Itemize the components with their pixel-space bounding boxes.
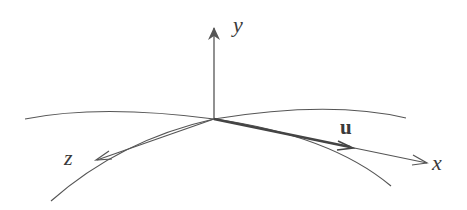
u-vector xyxy=(214,119,350,147)
upper-left-arc xyxy=(25,112,214,120)
lower-left-arc xyxy=(51,119,214,201)
y-axis-label: y xyxy=(233,14,243,36)
z-axis-label: z xyxy=(64,147,73,169)
coordinate-frame-diagram: y x z u xyxy=(0,0,467,210)
z-axis xyxy=(97,119,214,160)
x-axis-label: x xyxy=(432,152,442,174)
upper-right-arc xyxy=(214,109,406,119)
lower-right-arc xyxy=(214,119,391,186)
u-vector-label: u xyxy=(340,117,352,138)
